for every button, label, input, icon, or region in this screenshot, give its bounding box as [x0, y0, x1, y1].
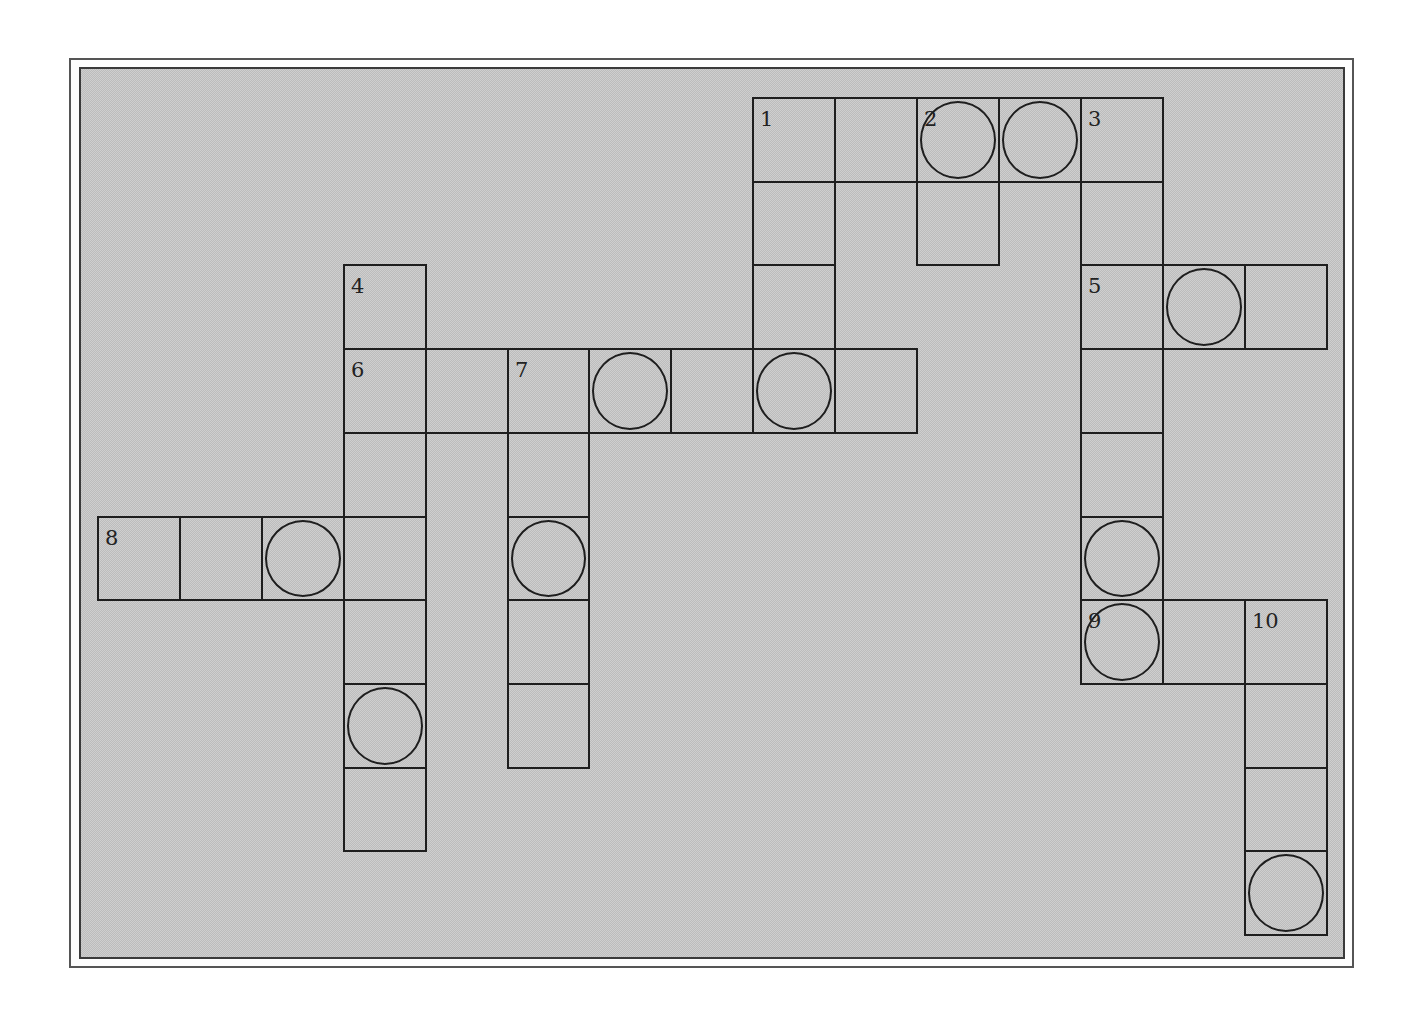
crossword-cell[interactable] — [1244, 264, 1328, 350]
crossword-cell[interactable] — [1162, 599, 1246, 685]
clue-number: 10 — [1252, 611, 1279, 632]
circle-marker-icon — [592, 352, 668, 430]
crossword-cell[interactable] — [752, 264, 836, 350]
crossword-cell[interactable] — [507, 432, 590, 518]
crossword-cell[interactable] — [1244, 683, 1328, 769]
crossword-cell[interactable]: 10 — [1244, 599, 1328, 685]
crossword-cell[interactable] — [1080, 432, 1164, 518]
circle-marker-icon — [1002, 101, 1078, 179]
crossword-cell-circled[interactable] — [507, 516, 590, 601]
clue-number: 5 — [1088, 276, 1101, 297]
crossword-cell-circled[interactable] — [1080, 516, 1164, 601]
crossword-cell-circled[interactable] — [752, 348, 836, 434]
crossword-cell[interactable] — [425, 348, 509, 434]
crossword-cell-circled[interactable]: 9 — [1080, 599, 1164, 685]
crossword-cell[interactable] — [834, 97, 918, 183]
circle-marker-icon — [265, 520, 341, 597]
crossword-cell[interactable]: 1 — [752, 97, 836, 183]
crossword-cell[interactable]: 7 — [507, 348, 590, 434]
crossword-cell[interactable]: 5 — [1080, 264, 1164, 350]
clue-number: 8 — [105, 528, 118, 549]
crossword-cell[interactable] — [1080, 181, 1164, 266]
crossword-cell-circled[interactable] — [1244, 850, 1328, 936]
crossword-cell[interactable]: 8 — [97, 516, 181, 601]
circle-marker-icon — [1248, 854, 1324, 932]
crossword-cell[interactable] — [1080, 348, 1164, 434]
crossword-cell[interactable] — [343, 432, 427, 518]
clue-number: 2 — [924, 109, 937, 130]
clue-number: 4 — [351, 276, 364, 297]
crossword-cell[interactable] — [343, 599, 427, 685]
circle-marker-icon — [1084, 520, 1160, 597]
crossword-cell-circled[interactable] — [343, 683, 427, 769]
crossword-cell[interactable] — [507, 599, 590, 685]
crossword-cell[interactable]: 6 — [343, 348, 427, 434]
circle-marker-icon — [756, 352, 832, 430]
crossword-cell-circled[interactable] — [588, 348, 672, 434]
circle-marker-icon — [511, 520, 586, 597]
crossword-cell[interactable] — [916, 181, 1000, 266]
clue-number: 9 — [1088, 611, 1101, 632]
crossword-cell-circled[interactable] — [261, 516, 345, 601]
crossword-cell[interactable] — [752, 181, 836, 266]
clue-number: 6 — [351, 360, 364, 381]
crossword-cell[interactable] — [1244, 767, 1328, 852]
clue-number: 3 — [1088, 109, 1101, 130]
clue-number: 1 — [760, 109, 773, 130]
crossword-cell[interactable] — [343, 767, 427, 852]
crossword-cell[interactable] — [507, 683, 590, 769]
crossword-cell[interactable]: 4 — [343, 264, 427, 350]
clue-number: 7 — [515, 360, 528, 381]
crossword-cell-circled[interactable]: 2 — [916, 97, 1000, 183]
crossword-cell[interactable] — [670, 348, 754, 434]
circle-marker-icon — [1166, 268, 1242, 346]
crossword-cell[interactable] — [179, 516, 263, 601]
crossword-grid: 12345678910 — [0, 0, 1419, 1026]
crossword-cell-circled[interactable] — [1162, 264, 1246, 350]
crossword-cell-circled[interactable] — [998, 97, 1082, 183]
circle-marker-icon — [347, 687, 423, 765]
crossword-cell[interactable] — [834, 348, 918, 434]
crossword-cell[interactable] — [343, 516, 427, 601]
crossword-cell[interactable]: 3 — [1080, 97, 1164, 183]
